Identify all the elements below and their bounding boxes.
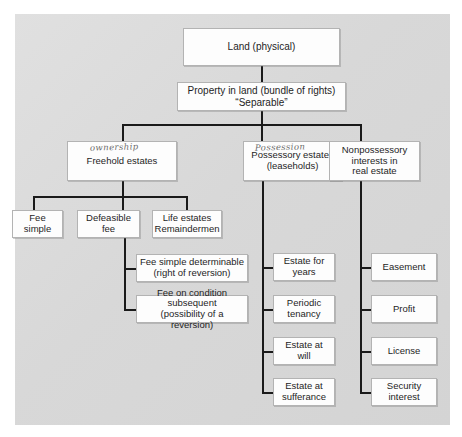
node-fee-simple-determinable[interactable]: Fee simple determinable (right of revers… [136, 254, 248, 282]
node-nonpossessory-interests-label: Nonpossessory interests in real estate [342, 145, 407, 177]
node-defeasible-fee-label: Defeasible fee [86, 213, 131, 234]
connector-middle-tier-bus [122, 124, 362, 126]
connector-freehold-bus [33, 196, 187, 198]
node-possessory-estates-label: Possessory estates (leaseholds) [251, 150, 333, 171]
connector-possessory-to-estate-for-years [262, 267, 273, 269]
node-easement-label: Easement [383, 262, 426, 273]
connector-nonpossessory-spine [360, 181, 362, 393]
node-life-estates[interactable]: Life estates Remaindermen [152, 210, 222, 238]
connector-property-trunk [261, 110, 263, 125]
connector-to-defeasible-fee [122, 196, 124, 210]
node-profit[interactable]: Profit [371, 295, 437, 323]
node-license-label: License [388, 346, 421, 357]
node-land-physical-label: Land (physical) [228, 41, 296, 52]
node-defeasible-fee[interactable]: Defeasible fee [77, 210, 140, 238]
node-property-in-land[interactable]: Property in land (bundle of rights) “Sep… [177, 82, 346, 111]
connector-possessory-spine [262, 181, 264, 393]
node-estate-at-sufferance-label: Estate at sufferance [282, 381, 326, 402]
connector-freehold-trunk [122, 181, 124, 197]
connector-possessory-to-estate-at-sufferance [262, 392, 273, 394]
node-profit-label: Profit [393, 304, 415, 315]
connector-possessory-to-estate-at-will [262, 351, 273, 353]
node-periodic-tenancy-label: Periodic tenancy [287, 298, 321, 319]
node-fee-simple-determinable-label: Fee simple determinable (right of revers… [140, 257, 244, 278]
node-estate-for-years[interactable]: Estate for years [273, 253, 335, 281]
connector-to-life-estates [186, 196, 188, 210]
connector-to-possessory [261, 124, 263, 141]
node-fee-on-condition-subsequent[interactable]: Fee on condition subsequent (possibility… [136, 295, 248, 323]
connector-nonpossessory-to-easement [360, 267, 371, 269]
connector-nonpossessory-to-profit [360, 309, 371, 311]
connector-nonpossessory-to-security-interest [360, 392, 371, 394]
node-nonpossessory-interests[interactable]: Nonpossessory interests in real estate [329, 141, 420, 181]
node-property-in-land-label: Property in land (bundle of rights) “Sep… [188, 85, 336, 107]
node-life-estates-label: Life estates Remaindermen [155, 213, 220, 234]
connector-nonpossessory-to-license [360, 351, 371, 353]
node-fee-on-condition-subsequent-label: Fee on condition subsequent (possibility… [139, 288, 245, 331]
node-fee-simple-label: Fee simple [24, 213, 51, 234]
node-estate-at-will-label: Estate at will [285, 340, 323, 361]
diagram-canvas: Land (physical) Property in land (bundle… [0, 0, 462, 437]
node-fee-simple[interactable]: Fee simple [12, 210, 63, 238]
connector-to-nonpossessory [360, 124, 362, 141]
node-freehold-estates-label: Freehold estates [87, 156, 158, 167]
node-estate-at-will[interactable]: Estate at will [273, 337, 335, 365]
node-security-interest[interactable]: Security interest [371, 378, 437, 406]
node-security-interest-label: Security interest [387, 381, 421, 402]
connector-defeasible-to-determinable [124, 268, 136, 270]
annotation-possession: Possession [255, 141, 306, 152]
node-license[interactable]: License [371, 337, 437, 365]
connector-defeasible-spine [124, 238, 126, 310]
connector-to-fee-simple [33, 196, 35, 210]
connector-to-freehold [122, 124, 124, 141]
connector-possessory-to-periodic-tenancy [262, 309, 273, 311]
node-land-physical[interactable]: Land (physical) [183, 28, 340, 66]
node-periodic-tenancy[interactable]: Periodic tenancy [273, 295, 335, 323]
node-estate-at-sufferance[interactable]: Estate at sufferance [273, 378, 335, 406]
node-easement[interactable]: Easement [371, 253, 437, 281]
connector-defeasible-to-condition [124, 309, 136, 311]
annotation-ownership: ownership [90, 141, 139, 152]
node-estate-for-years-label: Estate for years [284, 256, 325, 277]
connector-land-to-property [261, 66, 263, 82]
